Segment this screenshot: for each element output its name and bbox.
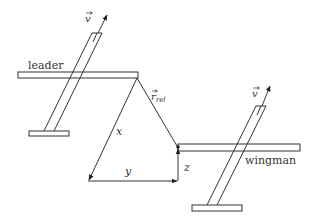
r-rel-vector [137, 78, 177, 146]
svg-text:rrel: rrel [151, 91, 166, 104]
wingman-velocity-arrow [262, 86, 270, 106]
leader-label: leader [28, 59, 64, 72]
wingman-wing [178, 144, 300, 151]
leader-wing [18, 72, 138, 78]
wingman-reference-point [176, 145, 180, 149]
leader-velocity-arrow [98, 15, 107, 33]
wingman-label: wingman [245, 154, 296, 167]
formation-diagram: v leader v wingman rrel x y z [0, 0, 317, 222]
x-label: x [116, 125, 123, 138]
leader-aircraft [18, 15, 138, 136]
leader-fuselage-right [54, 33, 102, 131]
wingman-tail [192, 205, 242, 211]
leader-fuselage-left [44, 33, 92, 131]
y-label: y [124, 165, 132, 178]
leader-velocity-label: v [85, 12, 93, 25]
leader-tail [29, 131, 69, 136]
z-label: z [183, 161, 190, 174]
r-rel-label: rrel [151, 90, 166, 105]
wingman-velocity-label: v [252, 87, 260, 100]
wingman-aircraft [178, 86, 300, 211]
